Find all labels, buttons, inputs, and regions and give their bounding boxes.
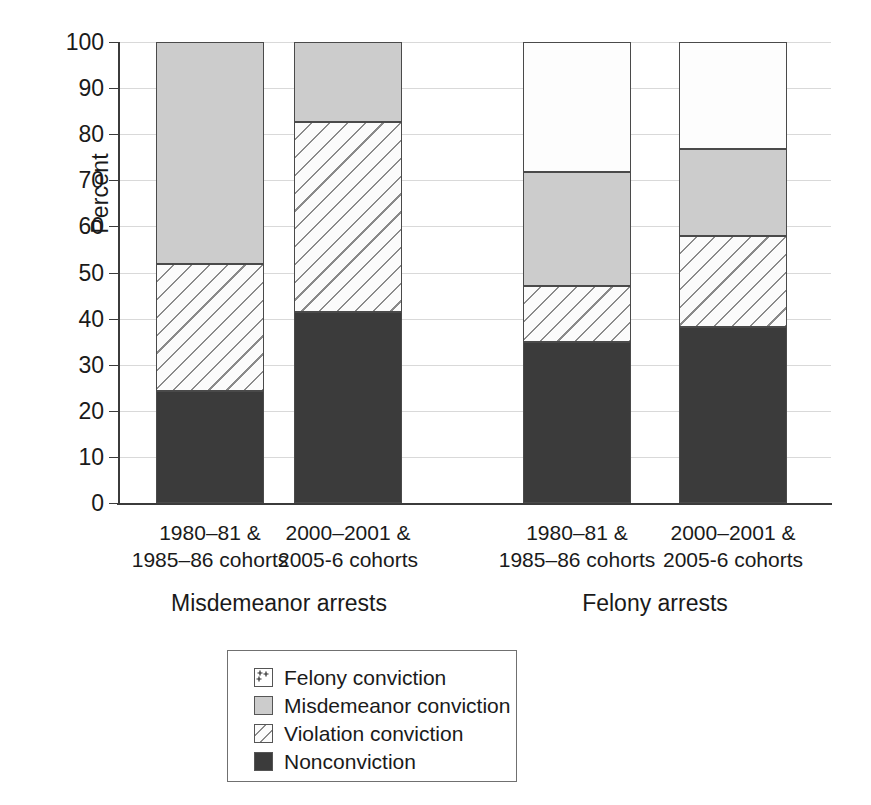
legend-item: Misdemeanor conviction <box>254 692 516 719</box>
y-tick-mark <box>109 134 118 135</box>
category-label: 2000–2001 & 2005-6 cohorts <box>238 519 458 573</box>
group-label: Felony arrests <box>495 590 815 617</box>
y-tick-mark <box>109 180 118 181</box>
plus-pattern-icon <box>524 43 630 171</box>
y-tick-label: 50 <box>78 259 104 286</box>
bar-segment-misd <box>156 42 264 264</box>
y-tick-label: 30 <box>78 351 104 378</box>
bar-segment-viol <box>294 122 402 311</box>
bar-segment-nonconv <box>156 391 264 503</box>
legend-item: Nonconviction <box>254 748 516 775</box>
legend-swatch-viol-icon <box>254 724 273 743</box>
y-tick-mark <box>109 226 118 227</box>
plot-area: 0102030405060708090100 <box>118 42 831 503</box>
y-tick-mark <box>109 503 118 504</box>
group-label: Misdemeanor arrests <box>119 590 439 617</box>
y-tick-mark <box>109 88 118 89</box>
stacked-bar <box>156 42 264 503</box>
bar-segment-misd <box>523 172 631 286</box>
y-tick-mark <box>109 457 118 458</box>
bar-segment-misd <box>679 149 787 236</box>
bar-segment-misd <box>294 42 402 122</box>
bar-segment-felony <box>523 42 631 172</box>
bar-segment-viol <box>523 286 631 342</box>
y-tick-label: 100 <box>66 29 104 56</box>
y-tick-label: 60 <box>78 213 104 240</box>
plus-pattern-icon <box>255 669 272 686</box>
stacked-bar <box>523 42 631 503</box>
y-tick-label: 80 <box>78 121 104 148</box>
y-tick-label: 90 <box>78 75 104 102</box>
x-axis-line <box>117 503 832 505</box>
bar-segment-nonconv <box>523 342 631 503</box>
category-label: 2000–2001 & 2005-6 cohorts <box>623 519 843 573</box>
legend-label: Felony conviction <box>284 666 446 690</box>
y-tick-label: 40 <box>78 305 104 332</box>
stacked-bar <box>294 42 402 503</box>
y-tick-label: 70 <box>78 167 104 194</box>
plus-pattern-icon <box>680 43 786 148</box>
y-tick-mark <box>109 319 118 320</box>
y-tick-mark <box>109 365 118 366</box>
legend-item: Violation conviction <box>254 720 516 747</box>
chart-figure: Percent 0102030405060708090100 1980–81 &… <box>0 0 871 805</box>
stacked-bar <box>679 42 787 503</box>
legend-label: Nonconviction <box>284 750 416 774</box>
bar-segment-nonconv <box>679 327 787 503</box>
legend-item: Felony conviction <box>254 664 516 691</box>
bar-segment-felony <box>679 42 787 149</box>
legend-swatch-misd-icon <box>254 696 273 715</box>
legend-label: Misdemeanor conviction <box>284 694 510 718</box>
legend-swatch-felony-icon <box>254 668 273 687</box>
legend-swatch-nonconv-icon <box>254 752 273 771</box>
y-axis-line <box>118 42 120 505</box>
y-tick-mark <box>109 273 118 274</box>
y-tick-label: 0 <box>91 490 104 517</box>
y-tick-label: 10 <box>78 443 104 470</box>
bar-segment-viol <box>679 236 787 327</box>
bar-segment-nonconv <box>294 312 402 503</box>
y-tick-mark <box>109 411 118 412</box>
bar-segment-viol <box>156 264 264 391</box>
y-tick-label: 20 <box>78 397 104 424</box>
legend-rows: Felony convictionMisdemeanor convictionV… <box>254 664 516 775</box>
y-tick-mark <box>109 42 118 43</box>
chart-legend: Felony convictionMisdemeanor convictionV… <box>227 650 517 782</box>
legend-label: Violation conviction <box>284 722 463 746</box>
